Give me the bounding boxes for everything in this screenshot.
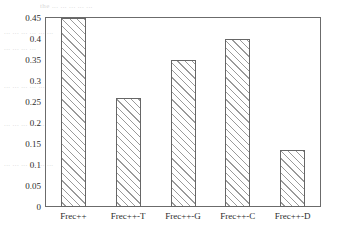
scan-bleedthrough-text: the ... ... ... ... ... <box>40 2 340 10</box>
x-axis-tick-label: Frec++-D <box>275 211 311 221</box>
x-axis-tick-label: Frec++-T <box>111 211 146 221</box>
x-axis-tick-label: Frec++-G <box>165 211 201 221</box>
bar <box>280 150 305 207</box>
y-axis-tick-label: 0.05 <box>25 181 41 191</box>
y-axis-tick-label: 0.35 <box>25 55 41 65</box>
bar <box>225 39 250 207</box>
bar <box>171 60 196 207</box>
x-axis-tick-labels: Frec++Frec++-TFrec++-GFrec++-CFrec++-D <box>46 211 320 227</box>
y-axis-tick-labels: 00.050.10.150.20.250.30.350.40.45 <box>0 17 41 207</box>
y-axis-tick-label: 0.1 <box>30 160 41 170</box>
y-axis-tick-label: 0.25 <box>25 97 41 107</box>
bar <box>61 18 86 207</box>
bar-chart-figure: the ... ... ... ... ... ... ... ... ... … <box>0 0 340 238</box>
y-axis-tick-label: 0.2 <box>30 118 41 128</box>
y-axis-tick-label: 0 <box>37 202 42 212</box>
bars-layer <box>46 18 320 207</box>
x-axis-tick-label: Frec++-C <box>220 211 255 221</box>
x-axis-tick-label: Frec++ <box>60 211 86 221</box>
y-axis-tick-label: 0.4 <box>30 34 41 44</box>
y-axis-tick-label: 0.15 <box>25 139 41 149</box>
bar <box>116 98 141 207</box>
y-axis-tick-label: 0.45 <box>25 13 41 23</box>
y-axis-tick-label: 0.3 <box>30 76 41 86</box>
